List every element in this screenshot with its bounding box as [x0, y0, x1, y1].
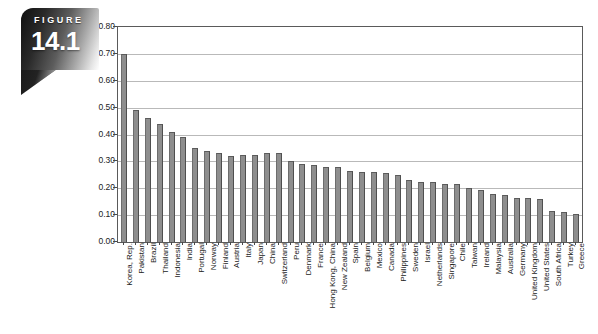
x-axis-label: Japan: [257, 243, 265, 265]
y-tick-mark: [113, 160, 117, 161]
bar: [204, 151, 210, 242]
y-tick-mark: [113, 53, 117, 54]
bar: [395, 175, 401, 242]
x-axis-label: Greece: [578, 243, 586, 269]
x-axis-label: France: [317, 243, 325, 268]
bar: [145, 118, 151, 242]
x-axis-label: Ireland: [483, 243, 491, 267]
x-axis-label: Australia: [507, 243, 515, 274]
bar: [192, 148, 198, 242]
bar: [573, 214, 579, 242]
bar: [406, 180, 412, 242]
bar: [276, 153, 282, 242]
bar: [169, 132, 175, 242]
bar: [418, 182, 424, 242]
x-axis-label: Taiwan: [471, 243, 479, 268]
x-axis-label: Brazil: [150, 243, 158, 263]
x-axis-label: Italy: [245, 243, 253, 258]
x-axis-label: Austria: [233, 243, 241, 268]
x-axis-label: Canada: [388, 243, 396, 271]
figure-label: FIGURE: [34, 15, 84, 25]
bar: [299, 164, 305, 242]
bar: [561, 212, 567, 242]
x-axis-label: Malaysia: [495, 243, 503, 275]
x-axis-label: Mexico: [376, 243, 384, 268]
x-axis-label: United States: [543, 243, 551, 291]
bar: [311, 165, 317, 242]
x-axis-label: Chile: [459, 243, 467, 261]
bar: [502, 195, 508, 242]
bar: [157, 124, 163, 242]
x-axis-label: China: [269, 243, 277, 264]
x-axis-label: Portugal: [198, 243, 206, 273]
figure-root: FIGURE 14.1 0.800.700.600.500.400.300.20…: [0, 0, 598, 334]
bar: [454, 184, 460, 242]
bar: [240, 155, 246, 242]
y-tick-mark: [113, 241, 117, 242]
y-tick-mark: [113, 26, 117, 27]
bar: [323, 167, 329, 242]
x-axis-label: Germany: [519, 243, 527, 276]
x-axis-label: Switzerland: [281, 243, 289, 284]
bar: [216, 153, 222, 242]
x-axis-label: Denmark: [305, 243, 313, 275]
bar: [180, 137, 186, 242]
x-axis-labels: Korea, Rep.PakistanBrazilThailandIndones…: [117, 243, 581, 331]
bar: [549, 211, 555, 242]
x-axis-label: Korea, Rep.: [126, 243, 134, 286]
bar: [490, 194, 496, 242]
x-axis-label: Norway: [210, 243, 218, 270]
y-tick-mark: [113, 134, 117, 135]
x-axis-label: Hong Kong, China: [329, 243, 337, 308]
x-axis-label: Indonesia: [174, 243, 182, 278]
bar: [442, 184, 448, 242]
bar: [371, 172, 377, 242]
y-tick-mark: [113, 80, 117, 81]
bar: [335, 167, 341, 242]
bar: [514, 198, 520, 242]
figure-number: 14.1: [31, 26, 80, 57]
bar: [430, 182, 436, 242]
bar: [466, 188, 472, 242]
bar: [525, 198, 531, 242]
bars-layer: [118, 27, 582, 242]
bar: [121, 54, 127, 242]
x-axis-label: United Kingdom: [531, 243, 539, 300]
bar: [478, 190, 484, 242]
x-axis-label: Singapore: [448, 243, 456, 279]
x-axis-label: Turkey: [567, 243, 575, 267]
x-axis-label: Belgium: [364, 243, 372, 272]
x-axis-label: India: [186, 243, 194, 260]
x-axis-label: Thailand: [162, 243, 170, 274]
x-axis-label: Finland: [222, 243, 230, 269]
x-axis-label: Philippines: [400, 243, 408, 282]
x-axis-label: South Africa: [555, 243, 563, 286]
bar: [228, 156, 234, 242]
y-tick-mark: [113, 214, 117, 215]
x-axis-label: Netherlands: [436, 243, 444, 286]
y-tick-mark: [113, 187, 117, 188]
bar: [359, 172, 365, 242]
bar: [347, 171, 353, 242]
bar: [252, 155, 258, 242]
bar: [288, 161, 294, 242]
x-axis-label: New Zealand: [341, 243, 349, 290]
chart-plot-area: [117, 26, 583, 243]
bar: [383, 173, 389, 242]
x-axis-label: Spain: [352, 243, 360, 263]
x-axis-label: Sweden: [412, 243, 420, 272]
bar: [133, 110, 139, 242]
figure-badge-tail: [21, 69, 57, 95]
x-axis-label: Pakistan: [138, 243, 146, 274]
bar: [537, 199, 543, 242]
x-axis-label: Peru: [293, 243, 301, 260]
x-axis-label: Israel: [424, 243, 432, 263]
bar: [264, 153, 270, 242]
y-tick-mark: [113, 107, 117, 108]
